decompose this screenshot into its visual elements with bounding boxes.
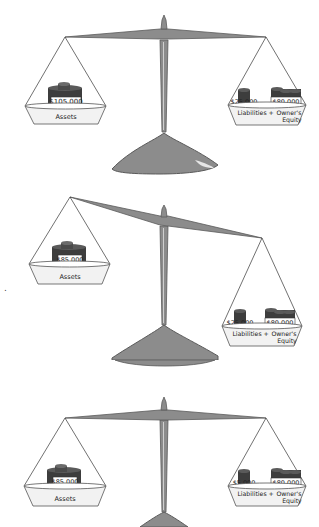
- liabilities-label: Liabilities: [232, 330, 261, 337]
- scale-base: [140, 512, 188, 527]
- scale-3-balanced: $85,000 Assets $5,000 $80,000 Liabilitie…: [0, 360, 319, 527]
- scale-1-graphic: $105,000 Assets $25,000 $80,000 Liabilit…: [0, 0, 319, 180]
- equity-label-2: Equity: [282, 497, 302, 505]
- scale-pivot: [161, 397, 167, 410]
- equity-label-2: Equity: [282, 116, 302, 124]
- plus-sign: +: [268, 490, 273, 497]
- liabilities-label: Liabilities: [237, 109, 266, 116]
- scale-1-balanced: $105,000 Assets $25,000 $80,000 Liabilit…: [0, 0, 319, 180]
- scale-pivot: [161, 205, 167, 217]
- scale-pivot: [161, 15, 167, 29]
- scale-base: [112, 325, 218, 360]
- scale-base: [112, 133, 218, 174]
- scale-3-graphic: $85,000 Assets $5,000 $80,000 Liabilitie…: [0, 360, 319, 527]
- plus-sign: +: [268, 109, 273, 116]
- assets-label: Assets: [55, 113, 77, 121]
- equity-label-1: Owner's: [276, 109, 301, 116]
- equity-label-2: Equity: [277, 337, 297, 345]
- plus-sign: +: [263, 330, 268, 337]
- scale-2-unbalanced: $85,000 Assets $25,000 $80,000 Liabiliti…: [0, 180, 319, 360]
- equity-label-1: Owner's: [276, 490, 301, 497]
- equity-label-1: Owner's: [271, 330, 296, 337]
- scale-2-graphic: $85,000 Assets $25,000 $80,000 Liabiliti…: [0, 180, 319, 360]
- assets-label: Assets: [54, 495, 76, 503]
- scale-beam: [65, 29, 266, 39]
- scale-beam: [65, 410, 266, 420]
- liabilities-label: Liabilities: [237, 490, 266, 497]
- assets-label: Assets: [59, 273, 81, 281]
